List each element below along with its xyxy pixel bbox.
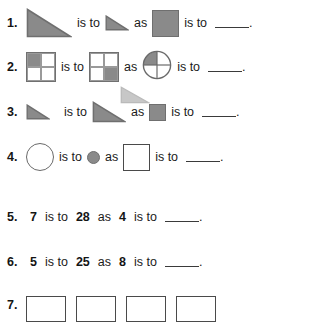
answer-blank-line-4[interactable] [186, 152, 220, 162]
connector-is-to-2b: is to [172, 60, 205, 74]
connector-is-to-1: is to [72, 16, 105, 30]
connector-is-to-6: is to [40, 255, 73, 269]
period-2: . [242, 63, 245, 72]
shape-square-top-left-quarter-shaded [26, 52, 56, 82]
answer-box-3[interactable] [126, 296, 166, 322]
connector-is-to-3b: is to [166, 105, 199, 119]
connector-as-3: as [126, 105, 149, 119]
shape-small-shaded-square [149, 104, 166, 121]
shape-small-shaded-triangle [26, 104, 50, 120]
answer-blank-6[interactable]: . [162, 257, 202, 267]
connector-is-to-3: is to [50, 105, 92, 119]
row-number-6: 6. [0, 255, 26, 269]
shape-small-shaded-circle [87, 151, 100, 164]
shape-large-shaded-triangle [92, 101, 126, 123]
term-b-6: 25 [73, 255, 93, 269]
connector-is-to-5b: is to [129, 210, 162, 224]
connector-is-to-4b: is to [150, 150, 183, 164]
row-number-4: 4. [0, 150, 26, 164]
shape-circle-top-left-quarter-shaded [142, 50, 172, 84]
connector-is-to-2: is to [56, 60, 89, 74]
quadrant-bottom-right [104, 67, 118, 81]
shape-large-shaded-triangle [26, 8, 72, 38]
connector-is-to-4: is to [54, 150, 87, 164]
worksheet-row-4: 4. is to as is to . [0, 140, 315, 174]
quadrant-top-right [104, 53, 118, 67]
connector-as-1: as [129, 16, 152, 30]
answer-box-4[interactable] [176, 296, 216, 322]
row-number-2: 2. [0, 60, 26, 74]
answer-blank-3[interactable]: . [199, 107, 239, 117]
period-3: . [236, 108, 239, 117]
quadrant-bottom-right [41, 67, 55, 81]
shape-large-open-square [123, 144, 150, 171]
answer-blank-1[interactable]: . [212, 18, 252, 28]
shape-large-open-circle [26, 143, 54, 171]
quadrant-bottom-left [27, 67, 41, 81]
quadrant-top-left [27, 53, 41, 67]
answer-blank-2[interactable]: . [205, 62, 245, 72]
answer-blank-line-6[interactable] [165, 257, 199, 267]
answer-box-1[interactable] [26, 296, 66, 322]
quadrant-top-right [41, 53, 55, 67]
term-a-6: 5 [26, 255, 40, 269]
connector-is-to-1b: is to [179, 16, 212, 30]
worksheet-row-7: 7. [0, 296, 315, 322]
row-number-5: 5. [0, 210, 26, 224]
row-number-3: 3. [0, 105, 26, 119]
quadrant-bottom-left [90, 67, 104, 81]
period-1: . [249, 19, 252, 28]
worksheet-row-6: 6. 5 is to 25 as 8 is to . [0, 252, 315, 272]
term-a-5: 7 [26, 210, 40, 224]
answer-blank-line-3[interactable] [202, 107, 236, 117]
quadrant-top-left [90, 53, 104, 67]
period-5: . [199, 213, 202, 222]
row-number-7: 7. [0, 296, 26, 312]
shape-large-shaded-square [152, 10, 179, 37]
worksheet-row-1: 1. is to as is to . [0, 4, 315, 42]
term-c-5: 4 [116, 210, 129, 224]
row-number-1: 1. [0, 16, 26, 30]
worksheet-row-2: 2. is to as [0, 49, 315, 85]
answer-blank-line-1[interactable] [215, 18, 249, 28]
answer-blank-line-2[interactable] [208, 62, 242, 72]
worksheet-row-5: 5. 7 is to 28 as 4 is to . [0, 207, 315, 227]
answer-box-2[interactable] [76, 296, 116, 322]
period-6: . [199, 258, 202, 267]
shape-square-bottom-right-quarter-shaded [89, 52, 119, 82]
connector-as-5: as [93, 210, 116, 224]
connector-is-to-6b: is to [129, 255, 162, 269]
shape-small-shaded-triangle [105, 15, 129, 31]
term-c-6: 8 [116, 255, 129, 269]
connector-as-6: as [93, 255, 116, 269]
connector-as-2: as [119, 60, 142, 74]
answer-blank-line-5[interactable] [165, 212, 199, 222]
worksheet-row-3: 3. is to as is to . [0, 96, 315, 128]
period-4: . [220, 153, 223, 162]
connector-as-4: as [100, 150, 123, 164]
term-b-5: 28 [73, 210, 93, 224]
answer-blank-4[interactable]: . [183, 152, 223, 162]
answer-blank-5[interactable]: . [162, 212, 202, 222]
connector-is-to-5: is to [40, 210, 73, 224]
